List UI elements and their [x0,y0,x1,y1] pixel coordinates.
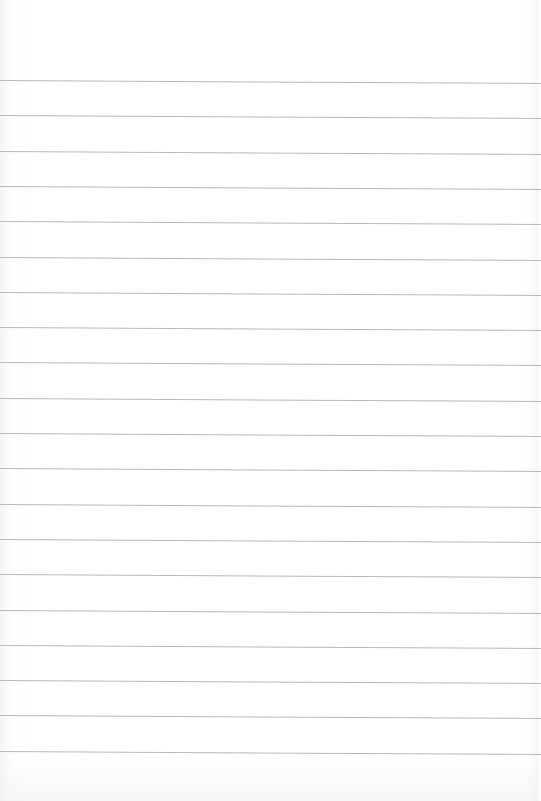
ruled-line [0,151,541,155]
ruled-line [0,468,541,472]
ruled-line [0,539,541,543]
ruled-line [0,80,541,84]
ruled-line [0,186,541,190]
ruled-line [0,292,541,296]
ruled-line [0,327,541,331]
ruled-line [0,645,541,649]
ruled-line [0,257,541,261]
ruled-line [0,574,541,578]
ruled-line [0,610,541,614]
ruled-line [0,433,541,437]
ruled-line [0,362,541,366]
ruled-line [0,398,541,402]
ruled-line [0,751,541,755]
ruled-line [0,221,541,225]
ruled-line [0,680,541,684]
ruled-line [0,504,541,508]
ruled-line [0,115,541,119]
ruled-line [0,715,541,719]
